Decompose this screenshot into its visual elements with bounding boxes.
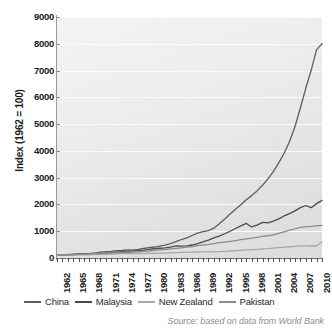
x-axis-tick-mark <box>122 258 123 262</box>
x-axis-tick-label: 1983 <box>175 273 186 293</box>
x-axis-tick-mark <box>165 258 166 262</box>
legend-item-china[interactable]: China <box>24 296 69 307</box>
x-axis-tick-label: 1998 <box>256 273 267 293</box>
source-note: Source: based on data from World Bank <box>168 316 324 326</box>
x-axis-tick-label: 1992 <box>223 273 234 293</box>
y-axis-tick-mark <box>57 151 60 152</box>
y-axis-tick-label: 9000 <box>20 11 54 22</box>
y-axis-tick-mark <box>57 71 60 72</box>
plot-area <box>57 17 322 258</box>
y-axis-tick-label: 1000 <box>20 225 54 236</box>
legend-swatch <box>219 301 236 303</box>
y-axis-tick-mark <box>57 17 60 18</box>
x-axis-tick-label: 1962 <box>61 273 72 293</box>
x-axis-tick-mark <box>219 258 220 262</box>
y-axis-tick-label: 0 <box>20 252 54 263</box>
y-axis-tick-label: 4000 <box>20 145 54 156</box>
x-axis-tick-mark <box>133 258 134 262</box>
x-axis-tick-mark <box>144 258 145 262</box>
legend-swatch <box>24 301 41 303</box>
legend-label: Malaysia <box>96 296 132 307</box>
x-axis-tick-mark <box>208 258 209 262</box>
x-axis-tick-mark <box>268 258 269 262</box>
x-axis-tick-mark <box>192 258 193 262</box>
x-axis-tick-mark <box>84 258 85 262</box>
x-axis-tick-mark <box>273 258 274 262</box>
x-axis-tick-mark <box>300 258 301 262</box>
x-axis-tick-mark <box>214 258 215 262</box>
y-axis-tick-label: 2000 <box>20 198 54 209</box>
x-axis-tick-mark <box>181 258 182 262</box>
x-axis-tick-mark <box>198 258 199 262</box>
x-axis-tick-label: 1965 <box>77 273 88 293</box>
chart-legend: ChinaMalaysiaNew ZealandPakistan <box>24 296 324 307</box>
x-axis-tick-mark <box>171 258 172 262</box>
y-axis-tick-mark <box>57 44 60 45</box>
x-axis-tick-mark <box>317 258 318 262</box>
x-axis-tick-label: 1980 <box>158 273 169 293</box>
y-axis-tick-label: 3000 <box>20 172 54 183</box>
x-axis-tick-label: 2010 <box>321 273 332 293</box>
chart-figure: Index (1962 = 100) 900080007000600050004… <box>0 0 332 333</box>
y-axis-tick-label: 5000 <box>20 118 54 129</box>
x-axis-tick-mark <box>230 258 231 262</box>
y-axis-ticks: 9000800070006000500040003000200010000 <box>16 0 54 333</box>
x-axis-tick-mark <box>89 258 90 262</box>
x-axis-tick-label: 1989 <box>207 273 218 293</box>
legend-label: Pakistan <box>240 296 275 307</box>
y-axis-tick-mark <box>57 124 60 125</box>
x-axis-tick-mark <box>284 258 285 262</box>
y-axis-tick-mark <box>57 178 60 179</box>
y-axis-tick-mark <box>57 231 60 232</box>
x-axis-tick-mark <box>73 258 74 262</box>
x-axis-tick-label: 1995 <box>240 273 251 293</box>
x-axis-tick-mark <box>279 258 280 262</box>
legend-item-malaysia[interactable]: Malaysia <box>75 296 132 307</box>
x-axis-tick-mark <box>306 258 307 262</box>
x-axis-tick-mark <box>57 258 58 262</box>
x-axis-tick-mark <box>203 258 204 262</box>
x-axis-tick-mark <box>187 258 188 262</box>
x-axis-tick-mark <box>263 258 264 262</box>
x-axis-tick-mark <box>100 258 101 262</box>
y-axis-tick-label: 7000 <box>20 65 54 76</box>
x-axis-tick-labels: 1962196519681971197419771980198319861989… <box>57 263 323 297</box>
x-axis-tick-label: 1974 <box>126 273 137 293</box>
x-axis-tick-mark <box>149 258 150 262</box>
x-axis-tick-label: 2001 <box>272 273 283 293</box>
y-axis-tick-label: 6000 <box>20 91 54 102</box>
x-axis-tick-label: 2007 <box>304 273 315 293</box>
x-axis-tick-label: 1986 <box>191 273 202 293</box>
x-axis-tick-mark <box>106 258 107 262</box>
legend-item-pakistan[interactable]: Pakistan <box>219 296 275 307</box>
y-axis-line <box>56 15 57 260</box>
x-axis-tick-mark <box>127 258 128 262</box>
series-lines <box>57 17 322 258</box>
x-axis-tick-mark <box>252 258 253 262</box>
x-axis-tick-mark <box>111 258 112 262</box>
x-axis-tick-label: 1968 <box>93 273 104 293</box>
x-axis-tick-label: 1971 <box>110 273 121 293</box>
x-axis-tick-mark <box>117 258 118 262</box>
y-axis-tick-label: 8000 <box>20 38 54 49</box>
x-axis-tick-label: 1977 <box>142 273 153 293</box>
y-axis-tick-mark <box>57 204 60 205</box>
x-axis-tick-label: 2004 <box>288 273 299 293</box>
x-axis-tick-mark <box>160 258 161 262</box>
x-axis-tick-mark <box>68 258 69 262</box>
series-line-pakistan <box>57 225 322 255</box>
x-axis-tick-mark <box>95 258 96 262</box>
y-axis-tick-mark <box>57 97 60 98</box>
legend-swatch <box>138 301 155 303</box>
x-axis-tick-mark <box>322 258 323 262</box>
series-line-china <box>57 44 322 256</box>
x-axis-tick-mark <box>241 258 242 262</box>
x-axis-tick-mark <box>176 258 177 262</box>
x-axis-tick-mark <box>154 258 155 262</box>
x-axis-tick-mark <box>257 258 258 262</box>
x-axis-tick-mark <box>246 258 247 262</box>
legend-label: New Zealand <box>159 296 213 307</box>
x-axis-tick-mark <box>79 258 80 262</box>
x-axis-tick-mark <box>62 258 63 262</box>
legend-item-new-zealand[interactable]: New Zealand <box>138 296 213 307</box>
